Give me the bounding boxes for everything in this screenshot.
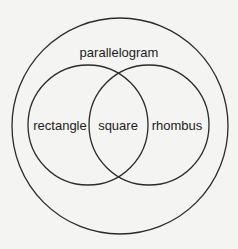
venn-diagram: parallelogram rectangle square rhombus xyxy=(0,0,238,249)
square-label: square xyxy=(98,118,138,133)
rhombus-label: rhombus xyxy=(152,118,203,133)
parallelogram-label: parallelogram xyxy=(80,45,159,60)
rectangle-label: rectangle xyxy=(33,118,86,133)
